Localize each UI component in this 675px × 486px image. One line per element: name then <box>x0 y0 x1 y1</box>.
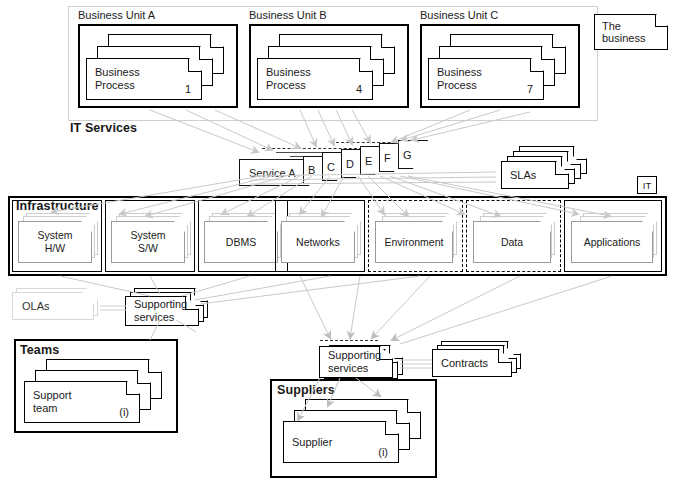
the-business-label: The business <box>602 20 667 44</box>
the-business-callout: The business <box>594 14 668 50</box>
service-stack-connector <box>262 148 362 149</box>
business-process-label: Business Process <box>95 66 140 92</box>
supplier-number: (i) <box>378 446 388 458</box>
it-services-section-label: IT Services <box>70 121 137 135</box>
it-tag-label: IT <box>643 180 651 191</box>
supporting-services-internal[interactable]: Supporting services <box>125 296 199 326</box>
service-letter: G <box>403 149 412 161</box>
service-letter: B <box>308 164 315 176</box>
infra-item-applications[interactable]: Applications <box>571 221 653 263</box>
supporting-services-external[interactable]: Supporting services <box>319 346 393 378</box>
business-process-label: Business Process <box>437 66 482 92</box>
support-team-i[interactable]: Support team (i) <box>24 381 140 423</box>
supplier-label: Supplier <box>292 436 332 449</box>
supporting-services-label: Supporting services <box>134 298 187 324</box>
suppliers-section-label: Suppliers <box>277 383 335 397</box>
olas-document[interactable]: OLAs <box>12 292 94 320</box>
business-unit-c-title: Business Unit C <box>420 9 498 21</box>
supporting-services-label: Supporting services <box>328 349 381 375</box>
supplier-i[interactable]: Supplier (i) <box>283 421 399 463</box>
infra-item-environment[interactable]: Environment <box>375 221 453 263</box>
business-process-number: 7 <box>527 83 533 95</box>
business-unit-a-title: Business Unit A <box>78 9 155 21</box>
olas-label: OLAs <box>22 300 50 312</box>
supporting-services-external-connector <box>320 340 378 341</box>
service-letter: C <box>327 161 335 173</box>
slas-document[interactable]: SLAs <box>501 161 569 189</box>
contracts-document[interactable]: Contracts <box>432 349 512 377</box>
business-process-4[interactable]: Business Process 4 <box>257 58 373 100</box>
service-a-label: Service A <box>249 167 295 179</box>
service-g[interactable]: G <box>398 140 428 169</box>
contracts-label: Contracts <box>441 357 488 370</box>
business-process-7[interactable]: Business Process 7 <box>428 58 544 100</box>
teams-section-label: Teams <box>20 343 59 357</box>
business-process-number: 1 <box>185 83 191 95</box>
infra-item-data[interactable]: Data <box>473 221 551 263</box>
it-tag: IT <box>637 176 657 194</box>
service-letter: D <box>346 158 354 170</box>
service-letter: E <box>365 155 372 167</box>
team-number: (i) <box>119 406 129 418</box>
business-unit-b-title: Business Unit B <box>249 9 327 21</box>
infra-item-system-hw[interactable]: System H/W <box>18 221 92 263</box>
infra-item-dbms[interactable]: DBMS <box>204 221 278 263</box>
infra-item-system-sw[interactable]: System S/W <box>111 221 185 263</box>
infra-item-networks[interactable]: Networks <box>281 221 355 263</box>
service-letter: F <box>384 152 391 164</box>
business-process-number: 4 <box>356 83 362 95</box>
diagram-canvas: Business Unit A 3 2 Business Process 1 B… <box>0 0 675 486</box>
business-process-label: Business Process <box>266 66 311 92</box>
service-stack-connector <box>336 142 406 143</box>
business-process-1[interactable]: Business Process 1 <box>86 58 202 100</box>
support-team-label: Support team <box>33 389 72 415</box>
slas-label: SLAs <box>510 169 536 182</box>
